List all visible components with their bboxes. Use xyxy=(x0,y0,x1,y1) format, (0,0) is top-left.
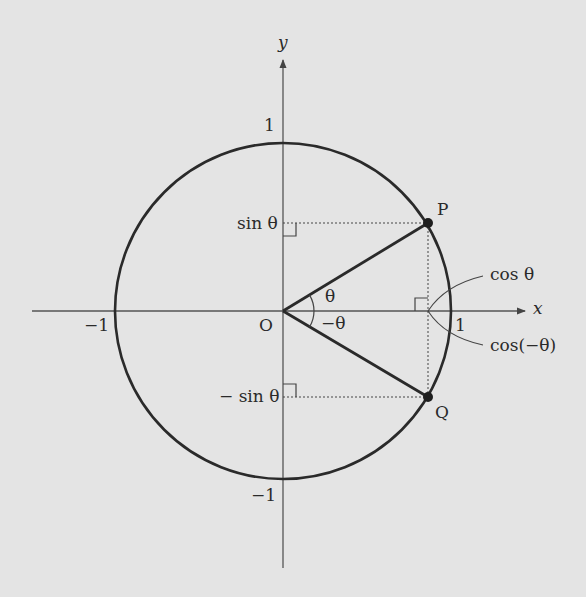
unit-circle-diagram: y x O 1 −1 −1 1 P Q θ −θ sin θ − sin θ c… xyxy=(0,0,586,597)
y-axis-label: y xyxy=(278,34,288,51)
point-Q-label: Q xyxy=(435,404,449,421)
neg-sin-theta-label: − sin θ xyxy=(219,388,279,405)
cos-theta-leader xyxy=(428,276,483,311)
diagram-canvas xyxy=(0,0,586,597)
theta-label: θ xyxy=(325,288,335,305)
point-P-label: P xyxy=(437,201,448,218)
right-angle-mark-neg-sin xyxy=(283,384,296,397)
origin-label: O xyxy=(259,317,273,334)
right-angle-mark-sin xyxy=(283,223,296,236)
radius-OP xyxy=(283,223,428,311)
x-axis-label: x xyxy=(533,300,543,317)
tick-y-pos-1: 1 xyxy=(264,117,275,134)
tick-x-neg-1: −1 xyxy=(84,317,109,334)
radius-OQ xyxy=(283,311,428,397)
right-angle-mark-cos xyxy=(415,298,428,311)
cos-theta-label: cos θ xyxy=(490,266,534,283)
tick-y-neg-1: −1 xyxy=(251,487,276,504)
neg-theta-label: −θ xyxy=(321,315,345,332)
point-P xyxy=(423,218,433,228)
sin-theta-label: sin θ xyxy=(237,215,278,232)
tick-x-pos-1: 1 xyxy=(455,317,466,334)
cos-neg-theta-label: cos(−θ) xyxy=(490,337,556,354)
point-Q xyxy=(423,392,433,402)
